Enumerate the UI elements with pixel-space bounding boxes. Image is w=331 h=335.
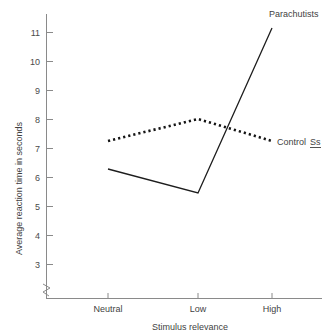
series-line-parachutists bbox=[108, 28, 272, 193]
y-tick-label-6: 6 bbox=[35, 173, 40, 183]
y-tick-label-9: 9 bbox=[35, 86, 40, 96]
x-axis-title: Stimulus relevance bbox=[152, 322, 228, 332]
y-axis-break-icon bbox=[43, 284, 50, 296]
y-tick-label-4: 4 bbox=[35, 231, 40, 241]
y-tick-group: 11 10 9 8 7 6 5 4 3 bbox=[30, 28, 53, 270]
y-tick-label-11: 11 bbox=[31, 28, 40, 38]
x-tick-label-low: Low bbox=[190, 304, 207, 314]
series-label-control: Control bbox=[277, 137, 306, 147]
x-tick-label-high: High bbox=[263, 304, 282, 314]
y-tick-label-7: 7 bbox=[35, 144, 40, 154]
y-axis-title: Average reaction time in seconds bbox=[14, 122, 24, 255]
series-line-control-ss bbox=[108, 119, 272, 141]
chart-figure: Average reaction time in seconds 11 10 9… bbox=[0, 0, 331, 335]
series-label-control-ss: Ss bbox=[310, 137, 321, 147]
y-tick-label-10: 10 bbox=[30, 57, 40, 67]
y-tick-label-8: 8 bbox=[35, 115, 40, 125]
x-tick-label-neutral: Neutral bbox=[93, 304, 122, 314]
series-label-parachutists: Parachutists bbox=[269, 9, 319, 19]
x-tick-group: Neutral Low High bbox=[93, 293, 281, 314]
y-tick-label-5: 5 bbox=[35, 202, 40, 212]
chart-svg: Average reaction time in seconds 11 10 9… bbox=[0, 0, 331, 335]
y-tick-label-3: 3 bbox=[35, 260, 40, 270]
